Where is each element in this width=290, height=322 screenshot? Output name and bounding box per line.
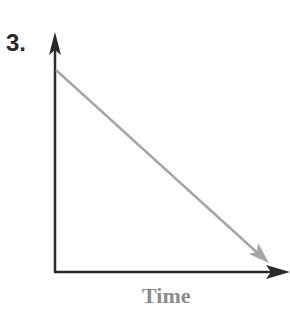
graph bbox=[0, 0, 290, 322]
x-axis-label: Time bbox=[142, 285, 190, 307]
y-axis bbox=[49, 32, 61, 272]
x-axis bbox=[54, 265, 290, 279]
decreasing-line bbox=[56, 70, 269, 263]
line-arrow-icon bbox=[249, 243, 269, 263]
